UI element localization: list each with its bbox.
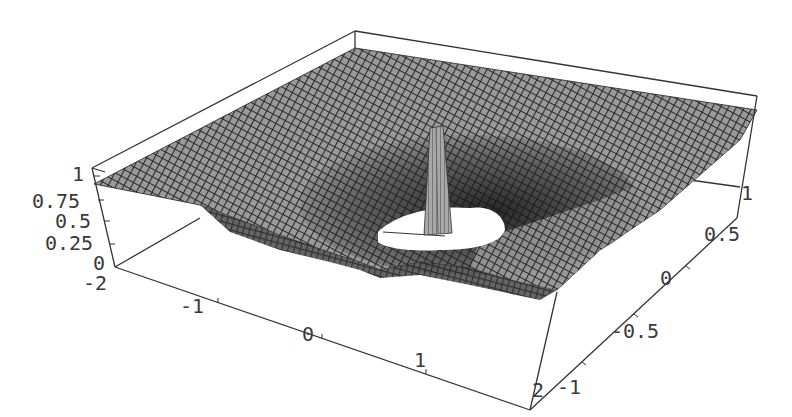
z-axis-tick-label: 0.5	[55, 209, 91, 233]
surface-mesh	[94, 48, 757, 300]
surface-plot: 10.750.50.250 -2-1012 -1-0.500.51	[0, 0, 792, 417]
x-axis-tick-label: 0	[302, 322, 314, 346]
y-axis-tick-label: 0.5	[704, 222, 740, 246]
y-axis-tick-label: -0.5	[611, 319, 659, 343]
y-axis-tick-label: -1	[557, 375, 581, 399]
y-axis-ticks	[582, 266, 690, 365]
x-axis-tick-label: 1	[414, 348, 426, 372]
x-axis-tick-label: -2	[83, 271, 107, 295]
z-axis-tick-label: 0.25	[45, 231, 93, 255]
y-axis-tick-label: 0	[660, 266, 672, 290]
x-axis-tick-label: 2	[532, 378, 544, 402]
x-axis-labels: -2-1012	[83, 271, 544, 402]
x-axis-ticks	[218, 298, 426, 374]
x-axis-tick-label: -1	[180, 294, 204, 318]
y-axis-tick-label: 1	[741, 181, 753, 205]
z-axis-tick-label: 1	[72, 162, 84, 186]
